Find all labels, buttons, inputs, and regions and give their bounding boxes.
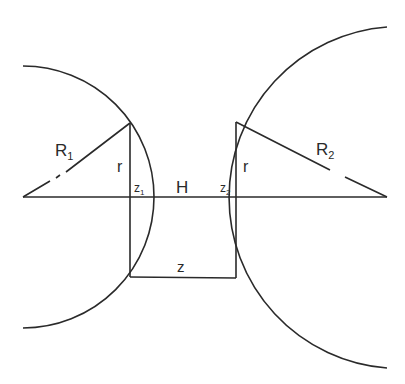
label-R1: R1 bbox=[55, 141, 73, 162]
label-r-right: r bbox=[243, 158, 249, 175]
sphere-bridge-diagram: R1 R2 r r z1 z2 H z bbox=[0, 0, 405, 384]
neck-length-line bbox=[130, 277, 236, 278]
label-H: H bbox=[176, 178, 188, 197]
label-R2: R2 bbox=[316, 140, 334, 161]
label-z1: z1 bbox=[134, 181, 145, 197]
label-z: z bbox=[177, 258, 185, 275]
label-r-left: r bbox=[117, 158, 123, 175]
left-radius-line bbox=[23, 123, 130, 197]
right-radius-line bbox=[236, 122, 387, 197]
